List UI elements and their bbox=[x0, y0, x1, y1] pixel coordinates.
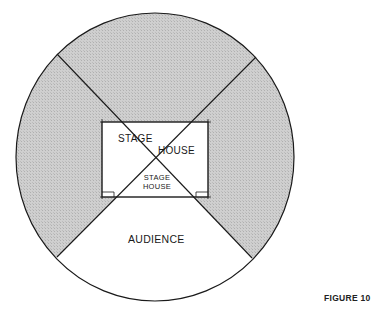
stage-house-label-line1: STAGE bbox=[140, 173, 174, 182]
stage-house-label: STAGE HOUSE bbox=[140, 173, 174, 191]
stage-label: STAGE bbox=[118, 133, 153, 144]
audience-label: AUDIENCE bbox=[128, 233, 185, 245]
figure-caption: FIGURE 10 bbox=[324, 293, 371, 303]
stage-house-label-line2: HOUSE bbox=[140, 182, 174, 191]
house-label: HOUSE bbox=[158, 145, 195, 156]
